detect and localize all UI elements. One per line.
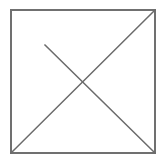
- diagonal-partial-to-bottom-right: [45, 45, 155, 153]
- figure-canvas: Square with crossed diagonals: [0, 0, 163, 162]
- line-diagram: [0, 0, 163, 162]
